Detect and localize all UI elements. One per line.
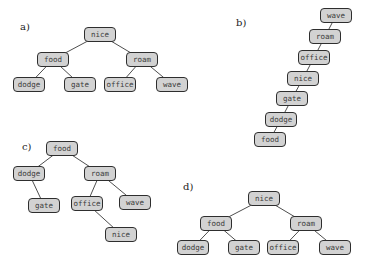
tree-node-c-office: office <box>71 196 103 211</box>
tree-node-d-gate: gate <box>228 240 260 255</box>
tree-node-d-nice: nice <box>248 191 280 206</box>
tree-node-c-dodge: dodge <box>13 166 45 181</box>
tree-node-a-nice: nice <box>84 27 116 42</box>
tree-node-d-roam: roam <box>290 216 322 231</box>
tree-node-b-roam: roam <box>309 29 341 44</box>
diagram-canvas: a)nicefoodroamdodgegateofficewaveb)waver… <box>0 0 366 265</box>
panel-label-b: b) <box>236 17 246 28</box>
tree-node-c-nice: nice <box>105 227 137 242</box>
tree-node-b-wave: wave <box>320 8 352 23</box>
tree-node-c-wave: wave <box>119 195 151 210</box>
tree-node-c-food: food <box>46 141 78 156</box>
tree-node-b-gate: gate <box>276 91 308 106</box>
tree-node-a-office: office <box>104 77 136 92</box>
tree-node-a-wave: wave <box>156 77 188 92</box>
panel-label-c: c) <box>22 141 32 152</box>
panel-label-a: a) <box>20 21 30 32</box>
tree-node-a-gate: gate <box>64 77 96 92</box>
tree-node-d-food: food <box>200 216 232 231</box>
tree-node-a-food: food <box>37 52 69 67</box>
tree-node-b-nice: nice <box>287 71 319 86</box>
tree-node-b-dodge: dodge <box>265 112 297 127</box>
tree-node-d-wave: wave <box>319 240 351 255</box>
tree-node-d-dodge: dodge <box>177 240 209 255</box>
panel-label-d: d) <box>183 181 193 192</box>
tree-node-b-office: office <box>298 50 330 65</box>
tree-node-c-roam: roam <box>84 166 116 181</box>
tree-node-a-roam: roam <box>126 52 158 67</box>
tree-node-c-gate: gate <box>28 198 60 213</box>
tree-node-a-dodge: dodge <box>13 77 45 92</box>
tree-node-b-food: food <box>254 132 286 147</box>
tree-node-d-office: office <box>267 240 299 255</box>
